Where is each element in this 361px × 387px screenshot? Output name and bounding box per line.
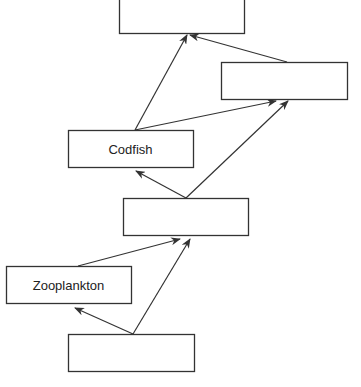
arrow-middle-to-right	[186, 101, 288, 198]
arrow-bottom-to-middle	[133, 239, 190, 334]
node-box	[69, 335, 195, 372]
food-web-diagram: CodfishZooplankton	[0, 0, 361, 387]
node-middle	[124, 199, 249, 236]
arrow-codfish-to-right	[135, 101, 276, 130]
node-box	[120, 0, 245, 34]
arrow-codfish-to-top	[135, 35, 187, 130]
node-box	[222, 63, 348, 100]
node-right	[222, 63, 348, 100]
node-label: Codfish	[108, 142, 152, 157]
node-box	[124, 199, 249, 236]
node-label: Zooplankton	[33, 278, 105, 293]
node-codfish: Codfish	[69, 131, 194, 168]
arrow-middle-to-codfish	[136, 171, 186, 198]
node-bottom	[69, 335, 195, 372]
node-zooplankton: Zooplankton	[7, 267, 132, 304]
arrow-right-to-top	[190, 35, 287, 62]
node-top	[120, 0, 245, 34]
arrow-zooplankton-to-middle	[78, 239, 180, 266]
arrow-bottom-to-zooplankton	[75, 308, 133, 334]
nodes-layer: CodfishZooplankton	[7, 0, 348, 372]
